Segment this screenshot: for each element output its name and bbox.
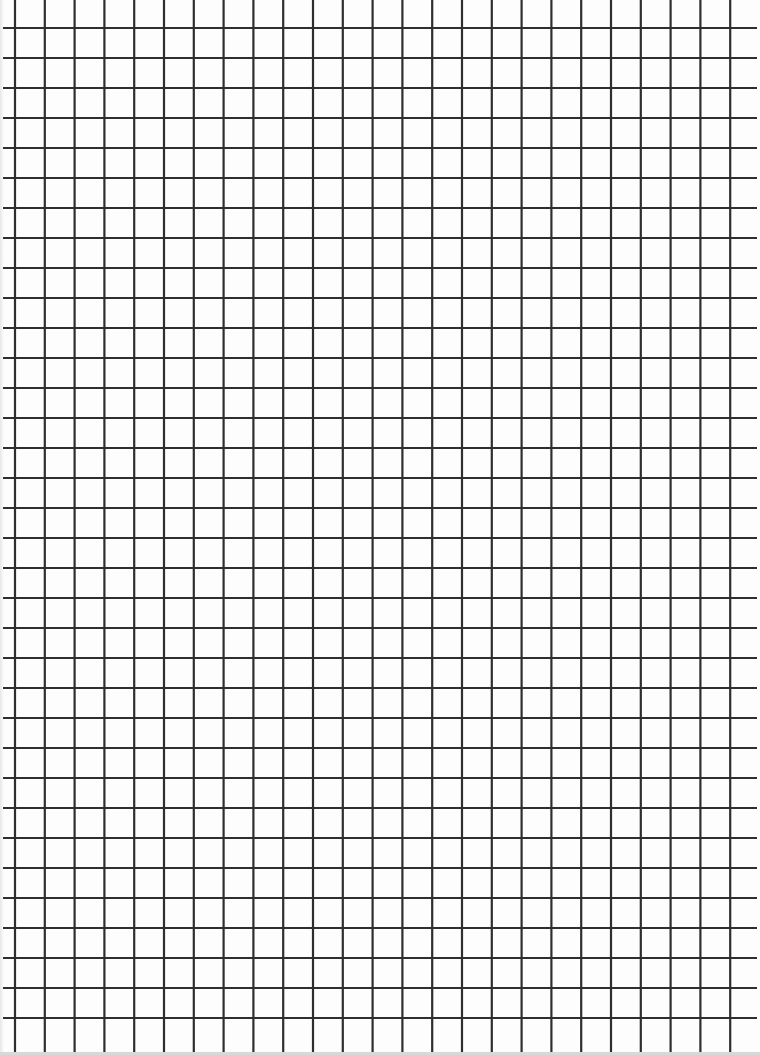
grid-paper xyxy=(0,0,760,1055)
grid-lines xyxy=(0,0,760,1055)
